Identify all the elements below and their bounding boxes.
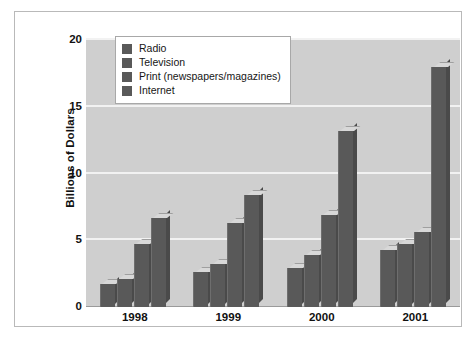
legend-item-print[interactable]: Print (newspapers/magazines) (122, 70, 281, 83)
bar-internet-2000[interactable] (338, 126, 357, 307)
y-tick-label-10: 10 (56, 168, 82, 180)
y-tick-label-20: 20 (56, 34, 82, 46)
legend-label: Television (139, 57, 185, 68)
x-tick-label-2000: 2000 (309, 311, 335, 323)
bar-top-face (434, 62, 454, 67)
y-axis-title: Billions of Dollars (64, 68, 76, 248)
legend-swatch-icon (122, 86, 132, 96)
bar-face (117, 279, 132, 307)
bar-internet-1999[interactable] (244, 190, 263, 307)
x-tick-label-1998: 1998 (122, 311, 148, 323)
bar-internet-2001[interactable] (431, 62, 450, 307)
y-tick-label-0: 0 (56, 301, 82, 313)
legend-swatch-icon (122, 44, 132, 54)
bar-face (244, 195, 259, 307)
bar-top-face (340, 126, 360, 131)
legend-swatch-icon (122, 72, 132, 82)
legend-label: Radio (139, 43, 166, 54)
bar-face (287, 268, 302, 307)
legend-item-television[interactable]: Television (122, 56, 281, 69)
legend-label: Internet (139, 85, 175, 96)
bar-face (397, 244, 412, 307)
chart-figure: Billions of Dollars 05101520 19981999200… (0, 0, 473, 339)
chart-frame: Billions of Dollars 05101520 19981999200… (14, 11, 462, 327)
bar-face (431, 67, 446, 307)
legend-label: Print (newspapers/magazines) (139, 71, 281, 82)
bar-face (134, 244, 149, 307)
bar-face (227, 223, 242, 307)
bar-internet-1998[interactable] (151, 213, 170, 307)
bar-group-2001 (380, 40, 450, 307)
y-tick-label-15: 15 (56, 101, 82, 113)
bar-face (193, 272, 208, 307)
legend-swatch-icon (122, 58, 132, 68)
y-tick-label-5: 5 (56, 235, 82, 247)
bar-group-2000 (287, 40, 357, 307)
bar-face (210, 264, 225, 307)
x-axis-tick-labels: 1998199920002001 (86, 311, 460, 331)
bar-face (338, 131, 353, 307)
chart-legend: RadioTelevisionPrint (newspapers/magazin… (115, 36, 291, 104)
legend-item-radio[interactable]: Radio (122, 42, 281, 55)
bar-top-face (247, 190, 267, 195)
bar-top-face (153, 213, 173, 218)
bar-face (151, 218, 166, 307)
bar-face (100, 284, 115, 307)
bar-face (414, 232, 429, 307)
x-tick-label-1999: 1999 (215, 311, 241, 323)
legend-item-internet[interactable]: Internet (122, 84, 281, 97)
x-tick-label-2001: 2001 (402, 311, 428, 323)
bar-face (321, 215, 336, 307)
bar-face (304, 255, 319, 307)
y-axis-tick-labels: Billions of Dollars 05101520 (52, 40, 82, 307)
bar-face (380, 250, 395, 307)
